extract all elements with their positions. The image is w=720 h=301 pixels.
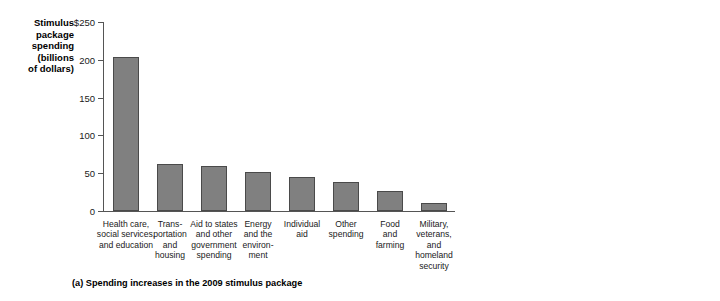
y-tick-label-50: 50 [84, 168, 95, 179]
y-tick-200 [98, 60, 103, 61]
panel-spending-increases: Stimuluspackagespending(billionsof dolla… [0, 0, 460, 301]
category-label-line: and [415, 240, 453, 250]
y-tick-0 [98, 211, 103, 212]
caption-panel-a: (a) Spending increases in the 2009 stimu… [72, 278, 302, 288]
category-label-line: homeland [415, 250, 453, 260]
category-label-line: Food [376, 219, 405, 229]
y-axis-line [103, 22, 104, 211]
x-axis-category-label: Trans-portationandhousing [153, 219, 186, 261]
y-tick-label-200: 200 [79, 54, 95, 65]
y-tick-label-0: 0 [90, 206, 95, 217]
x-axis-category-label: Foodandfarming [376, 219, 405, 250]
category-label-line: government [190, 240, 237, 250]
plot-area-spending: 050100150200$250Health care,social servi… [104, 22, 456, 211]
category-label-line: Military, [415, 219, 453, 229]
category-label-line: Other [329, 219, 364, 229]
category-label-line: and [376, 229, 405, 239]
x-axis-category-label: Individualaid [284, 219, 320, 240]
x-axis-category-label: Energyand theenviron-ment [242, 219, 273, 261]
bar [113, 57, 139, 211]
y-tick-label-250: $250 [74, 17, 95, 28]
y-axis-title-spending-line-1: package [2, 29, 74, 41]
category-label-line: Individual [284, 219, 320, 229]
y-tick-250 [98, 22, 103, 23]
x-axis-line [103, 211, 455, 212]
category-label-line: Aid to states [190, 219, 237, 229]
y-axis-title-spending-line-3: (billions [2, 52, 74, 64]
stimulus-package-figure: Stimuluspackagespending(billionsof dolla… [0, 0, 720, 301]
bar [289, 177, 315, 211]
y-axis-title-spending-line-0: Stimulus [2, 17, 74, 29]
bar [377, 191, 403, 211]
y-axis-title-spending-line-2: spending [2, 40, 74, 52]
category-label-line: and other [190, 229, 237, 239]
bar [333, 182, 359, 211]
bar [421, 203, 447, 211]
category-label-line: and education [97, 240, 155, 250]
x-axis-category-label: Military,veterans,andhomelandsecurity [415, 219, 453, 271]
category-label-line: spending [329, 229, 364, 239]
category-label-line: Trans- [153, 219, 186, 229]
category-label-line: portation [153, 229, 186, 239]
category-label-line: aid [284, 229, 320, 239]
x-axis-category-label: Otherspending [329, 219, 364, 240]
category-label-line: and the [242, 229, 273, 239]
y-tick-150 [98, 98, 103, 99]
category-label-line: farming [376, 240, 405, 250]
x-axis-category-label: Health care,social services,and educatio… [97, 219, 155, 250]
y-axis-title-spending-line-4: of dollars) [2, 63, 74, 75]
category-label-line: environ- [242, 240, 273, 250]
bar [201, 166, 227, 211]
category-label-line: ment [242, 250, 273, 260]
category-label-line: veterans, [415, 229, 453, 239]
category-label-line: Health care, [97, 219, 155, 229]
y-tick-50 [98, 173, 103, 174]
y-tick-label-100: 100 [79, 130, 95, 141]
x-axis-category-label: Aid to statesand othergovernmentspending [190, 219, 237, 261]
y-tick-100 [98, 135, 103, 136]
category-label-line: housing [153, 250, 186, 260]
category-label-line: Energy [242, 219, 273, 229]
y-axis-title-spending: Stimuluspackagespending(billionsof dolla… [2, 17, 74, 75]
category-label-line: and [153, 240, 186, 250]
category-label-line: security [415, 261, 453, 271]
bar [245, 172, 271, 211]
panel-tax-cuts: Tax cuts(billionsof dollars) 05010015020… [460, 0, 720, 301]
category-label-line: social services, [97, 229, 155, 239]
y-tick-label-150: 150 [79, 92, 95, 103]
category-label-line: spending [190, 250, 237, 260]
bar [157, 164, 183, 211]
